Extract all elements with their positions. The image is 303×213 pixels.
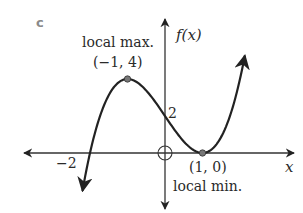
local-min-coords: (1, 0) bbox=[189, 159, 227, 175]
local-min-title: local min. bbox=[173, 178, 242, 194]
x-intercept-label: −2 bbox=[56, 155, 77, 171]
local-max-coords: (−1, 4) bbox=[93, 54, 142, 70]
local-min-point bbox=[199, 150, 205, 156]
x-axis-label: x bbox=[285, 158, 294, 176]
y-axis-label: f(x) bbox=[175, 26, 202, 44]
part-label: c bbox=[36, 15, 44, 30]
graph-canvas: c f(x) x local max. (−1, 4) 2 −2 (1, 0) … bbox=[0, 0, 303, 213]
local-max-title: local max. bbox=[82, 34, 154, 50]
local-max-point bbox=[124, 76, 130, 82]
y-intercept-label: 2 bbox=[168, 105, 177, 121]
